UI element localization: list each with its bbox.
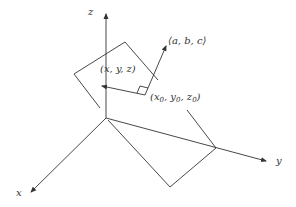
diagram-svg — [0, 0, 296, 207]
normal-vector-label: ⟨a, b, c⟩ — [168, 36, 206, 46]
plane-outline-top — [74, 42, 158, 108]
base-point-x: (x — [150, 91, 160, 102]
plane-outline — [108, 110, 216, 187]
y-axis-label: y — [276, 156, 282, 166]
base-point-label: (x0, y0, z0) — [150, 92, 201, 104]
plane-diagram: z x y ⟨a, b, c⟩ (x, y, z) (x0, y0, z0) — [0, 0, 296, 207]
normal-vector-arrow — [145, 46, 166, 95]
base-point-z: , z — [181, 91, 193, 102]
z-axis-label: z — [88, 7, 93, 17]
base-point-y: , y — [164, 91, 176, 102]
base-point-close: ) — [197, 91, 201, 102]
x-axis-label: x — [16, 188, 22, 198]
x-axis — [31, 118, 106, 192]
general-point-label: (x, y, z) — [100, 64, 136, 74]
y-axis — [106, 118, 266, 161]
